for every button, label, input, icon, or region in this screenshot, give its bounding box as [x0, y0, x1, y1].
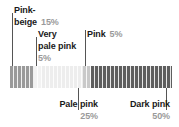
- bar-segment-pale-pink[interactable]: [42, 66, 83, 88]
- callout-pale-pink-percent: 25%: [80, 111, 98, 121]
- leader-line-pink-beige: [12, 13, 13, 66]
- callout-pink-beige-name-line2: beige: [14, 17, 37, 27]
- callout-pink-beige-percent: 15%: [41, 17, 59, 27]
- callout-pink-name: Pink: [87, 29, 106, 39]
- colour-proportion-chart: Pink- beige15% Very pale pink 5% Pink5% …: [0, 0, 179, 127]
- callout-dark-pink-name: Dark pink: [130, 99, 170, 109]
- callout-very-pale-pink-percent: 5%: [38, 53, 51, 63]
- callout-pink-beige-name-line1: Pink-: [14, 5, 36, 15]
- bar-segment-pink-beige[interactable]: [10, 66, 34, 88]
- callout-very-pale-pink-name-line2: pale pink: [38, 41, 76, 51]
- callout-pink-beige: Pink- beige15%: [14, 3, 84, 27]
- callout-dark-pink: Dark pink 50%: [108, 97, 170, 121]
- callout-dark-pink-percent: 50%: [152, 111, 170, 121]
- proportion-bar: [10, 66, 172, 88]
- callout-pale-pink: Pale pink 25%: [38, 97, 98, 121]
- bar-segment-dark-pink[interactable]: [91, 66, 172, 88]
- bar-segment-pink[interactable]: [83, 66, 91, 88]
- callout-pink: Pink5%: [87, 27, 147, 39]
- callout-pink-percent: 5%: [110, 29, 123, 39]
- bar-segment-very-pale-pink[interactable]: [34, 66, 42, 88]
- callout-pale-pink-name: Pale pink: [59, 99, 98, 109]
- leader-line-very-pale-pink: [36, 37, 37, 66]
- callout-very-pale-pink-name-line1: Very: [38, 29, 57, 39]
